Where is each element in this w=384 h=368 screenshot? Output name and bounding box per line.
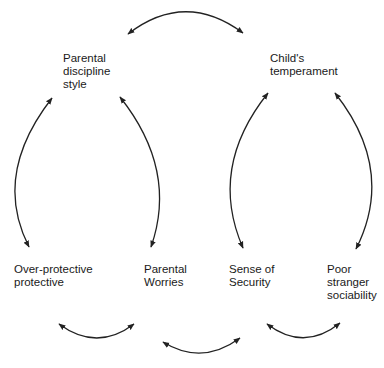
node-over-protective: Over-protective protective [14, 263, 93, 289]
arrow-sociability-temperament [335, 93, 372, 249]
diagram-canvas: Parental discipline style Child's temper… [0, 0, 384, 368]
arrow-discipline-temperament [128, 12, 243, 34]
node-sense-of-security: Sense of Security [229, 263, 274, 289]
arrow-worries-discipline [120, 97, 160, 247]
node-childs-temperament: Child's temperament [270, 52, 338, 78]
node-poor-stranger-sociability: Poor stranger sociability [327, 263, 377, 302]
arrow-security-sociability [267, 323, 340, 338]
arrow-worries-security [163, 338, 240, 353]
arrow-overprotective-worries [59, 324, 134, 338]
arrow-security-temperament [230, 93, 268, 248]
arrow-overprotective-discipline [15, 98, 52, 247]
node-parental-worries: Parental Worries [144, 263, 187, 289]
node-parental-discipline-style: Parental discipline style [63, 52, 110, 91]
